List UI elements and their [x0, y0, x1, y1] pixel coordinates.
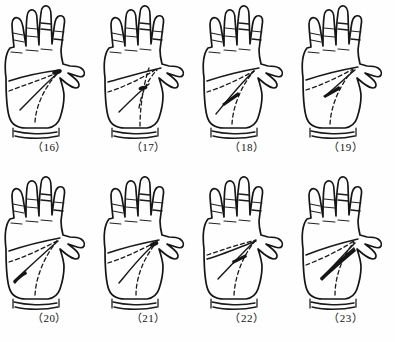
figure-cell-19: （19）	[296, 0, 395, 171]
little-finger-crease	[112, 33, 122, 35]
little-finger-crease	[13, 33, 23, 35]
ring-finger-crease-2	[225, 36, 236, 37]
middle-finger-crease	[239, 23, 249, 24]
palm-silhouette	[104, 177, 183, 299]
palm-silhouette	[302, 6, 381, 128]
middle-finger-crease	[338, 23, 348, 24]
middle-finger-crease	[41, 194, 51, 195]
hand-diagram-18	[198, 0, 296, 144]
wrist-creases-23	[310, 299, 356, 309]
wrist-crease-1	[113, 302, 156, 305]
figure-caption-20: （20）	[32, 313, 67, 324]
figure-cell-17: （17）	[99, 0, 198, 171]
little-knuckle-fold	[11, 52, 22, 53]
palm-creases-19	[306, 67, 358, 124]
little-finger-crease-2	[14, 211, 24, 213]
palm-creases-21	[108, 240, 159, 295]
ring-knuckle-fold	[125, 50, 137, 51]
figure-cell-22: （22）	[198, 171, 297, 342]
wrist-creases-22	[211, 299, 257, 309]
figure-caption-19: （19）	[328, 142, 363, 153]
palm-silhouette	[6, 6, 85, 128]
little-finger-crease	[112, 204, 122, 206]
little-knuckle-fold	[110, 52, 121, 53]
little-finger-crease-2	[212, 211, 222, 213]
wrist-creases-20	[13, 299, 59, 309]
figure-cell-20: （20）	[0, 171, 99, 342]
wrist-crease-1	[14, 302, 57, 305]
figure-caption-16: （16）	[32, 142, 67, 153]
little-knuckle-fold	[308, 223, 319, 224]
ring-finger-crease-2	[27, 207, 38, 208]
little-finger-crease	[310, 33, 320, 35]
life-line-dashed	[35, 74, 57, 122]
ring-knuckle-fold	[323, 50, 335, 51]
index-finger-crease-2	[153, 210, 162, 211]
figure-caption-17: （17）	[131, 142, 166, 153]
little-finger-crease	[211, 204, 221, 206]
figure-cell-18: （18）	[198, 0, 297, 171]
hand-outline-18	[203, 6, 282, 128]
wrist-crease-2	[15, 307, 58, 309]
distal-transverse-crease	[207, 241, 256, 259]
hand-outline-22	[203, 177, 282, 299]
hand-outline-16	[6, 6, 85, 128]
middle-finger-crease-2	[338, 200, 348, 201]
ring-finger-crease-2	[126, 36, 137, 37]
ring-finger-crease-2	[225, 207, 236, 208]
hand-outline-19	[302, 6, 381, 128]
hand-diagram-22	[198, 171, 296, 315]
middle-finger-crease	[41, 23, 51, 24]
hand-outline-17	[104, 6, 183, 128]
wrist-creases-21	[112, 299, 158, 309]
palm-creases-17	[108, 68, 161, 126]
figure-cell-23: （23）	[296, 171, 395, 342]
palm-silhouette	[104, 6, 183, 128]
little-knuckle-fold	[209, 223, 220, 224]
ring-knuckle-fold	[224, 221, 236, 222]
hand-diagram-20	[0, 171, 98, 315]
middle-knuckle-fold	[338, 49, 349, 50]
distal-transverse-crease	[9, 238, 60, 251]
little-finger-crease-2	[311, 211, 321, 213]
wrist-creases-16	[13, 128, 59, 138]
little-finger-crease	[310, 204, 320, 206]
wrist-crease-2	[312, 307, 355, 309]
middle-finger-crease-2	[239, 200, 249, 201]
wrist-creases-18	[211, 128, 257, 138]
ring-finger-crease-2	[27, 36, 38, 37]
ring-finger-crease	[225, 28, 235, 29]
figure-cell-16: （16）	[0, 0, 99, 171]
ring-knuckle-fold	[26, 50, 38, 51]
little-finger-crease	[13, 204, 23, 206]
wrist-crease-1	[14, 131, 57, 134]
little-finger-crease-2	[113, 211, 123, 213]
middle-knuckle-fold	[41, 220, 52, 221]
middle-finger-crease-2	[140, 29, 150, 30]
middle-finger-crease-2	[239, 29, 249, 30]
wrist-crease-2	[114, 307, 157, 309]
index-finger-crease-2	[153, 39, 162, 40]
ring-finger-crease-2	[126, 207, 137, 208]
index-finger-crease-2	[252, 210, 261, 211]
ring-finger-crease	[27, 199, 37, 200]
palm-silhouette	[203, 177, 282, 299]
ring-finger-crease-2	[324, 36, 335, 37]
middle-knuckle-fold	[338, 220, 349, 221]
figure-caption-22: （22）	[229, 313, 264, 324]
life-line-dashed	[35, 241, 57, 295]
ring-finger-crease	[324, 28, 334, 29]
ring-finger-crease	[324, 199, 334, 200]
middle-knuckle-fold	[140, 220, 151, 221]
hand-outline-23	[302, 177, 381, 299]
dark-mark-long-streak	[320, 247, 356, 281]
little-knuckle-fold	[110, 223, 121, 224]
wrist-crease-2	[15, 136, 58, 138]
figure-cell-21: （21）	[99, 171, 198, 342]
wrist-crease-2	[312, 136, 355, 138]
hand-diagram-21	[99, 171, 197, 315]
hand-diagram-17	[99, 0, 197, 144]
dark-mark-leaf	[13, 271, 27, 284]
wrist-crease-2	[213, 136, 256, 138]
dark-mark-spindle	[323, 86, 341, 98]
